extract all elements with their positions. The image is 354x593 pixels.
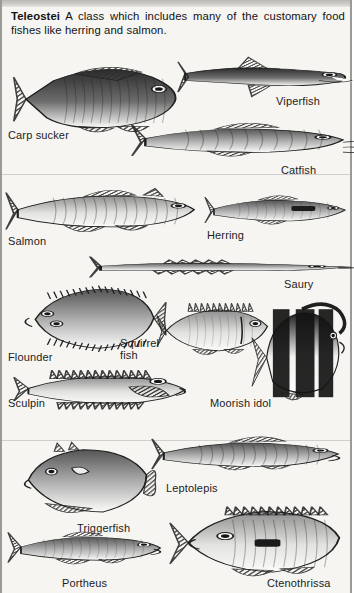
plate-top-band [2, 0, 350, 7]
fish-label-flounder: Flounder [8, 352, 53, 364]
taxon-description: A class which includes many of the custo… [11, 10, 345, 36]
fish-figure-catfish [132, 110, 354, 172]
fish-figure-triggerfish [14, 438, 158, 522]
fish-label-viperfish: Viperfish [276, 96, 320, 108]
fish-figure-leptolepis [152, 425, 348, 483]
fish-label-squirrel-fish: Squirrel fish [120, 338, 159, 361]
fish-label-ctenothrissa: Ctenothrissa [267, 578, 331, 590]
fish-figure-viperfish [178, 48, 354, 106]
plate-caption: Teleostei A class which includes many of… [11, 9, 345, 37]
fish-label-salmon: Salmon [8, 236, 46, 248]
taxon-name: Teleostei [11, 10, 60, 22]
fish-label-catfish: Catfish [281, 165, 316, 177]
fish-label-carp-sucker: Carp sucker [8, 130, 69, 142]
fish-figure-ctenothrissa [170, 500, 354, 582]
fish-label-saury: Saury [284, 279, 314, 291]
fish-label-moorish-idol: Moorish idol [210, 398, 271, 410]
fish-label-triggerfish: Triggerfish [77, 523, 130, 535]
fish-label-herring: Herring [207, 230, 244, 242]
fish-label-sculpin: Sculpin [8, 398, 45, 410]
fish-figure-moorish-idol [250, 296, 354, 406]
fish-label-leptolepis: Leptolepis [166, 483, 218, 495]
fish-label-portheus: Portheus [62, 578, 107, 590]
